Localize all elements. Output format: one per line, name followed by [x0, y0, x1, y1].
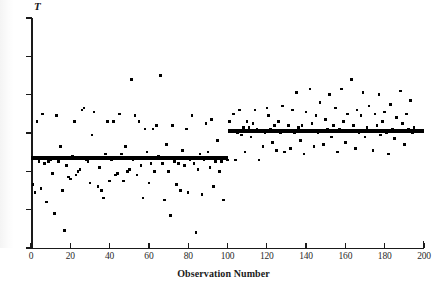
x-axis-title: Observation Number — [0, 269, 447, 279]
data-point — [332, 124, 335, 127]
data-point — [346, 113, 349, 116]
data-point — [183, 164, 186, 167]
data-point — [275, 149, 278, 152]
data-point — [97, 185, 100, 188]
data-point — [45, 201, 48, 204]
data-point — [124, 145, 127, 148]
data-point — [199, 153, 202, 156]
data-point — [366, 126, 369, 129]
data-point — [344, 141, 347, 144]
data-point — [342, 120, 345, 123]
data-point — [244, 151, 247, 154]
data-point — [214, 160, 217, 163]
data-point — [413, 126, 416, 129]
data-point — [328, 93, 331, 96]
data-point — [393, 137, 396, 140]
data-point — [146, 151, 149, 154]
data-point — [234, 159, 237, 162]
data-point — [138, 120, 141, 123]
data-point — [376, 124, 379, 127]
data-point — [395, 116, 398, 119]
data-point — [163, 199, 166, 202]
data-point — [43, 162, 46, 165]
data-point — [177, 162, 180, 165]
data-point — [53, 212, 56, 215]
data-point — [405, 113, 408, 116]
data-point — [161, 162, 164, 165]
mean-after-shift — [228, 129, 425, 133]
data-point — [315, 114, 318, 117]
data-point — [73, 120, 76, 123]
x-tick-label: 20 — [53, 252, 87, 262]
data-point — [266, 107, 269, 110]
data-point — [383, 111, 386, 114]
scatter-plot-figure: T -20246810 020406080100120140160180200 … — [0, 0, 447, 288]
data-point — [250, 136, 253, 139]
x-tick-label: 120 — [250, 252, 284, 262]
data-point — [130, 78, 133, 81]
data-point — [87, 160, 90, 163]
data-point — [248, 126, 251, 129]
data-point — [144, 128, 147, 131]
data-point — [291, 109, 294, 112]
data-point — [324, 118, 327, 121]
data-point — [311, 122, 314, 125]
data-point — [334, 107, 337, 110]
data-point — [100, 189, 103, 192]
data-point — [38, 160, 41, 163]
data-point — [187, 191, 190, 194]
data-point — [116, 172, 119, 175]
data-point — [313, 145, 316, 148]
data-point — [289, 147, 292, 150]
data-point — [150, 162, 153, 165]
data-point — [83, 107, 86, 110]
data-point — [372, 149, 375, 152]
data-point — [61, 189, 64, 192]
y-axis-title: T — [34, 1, 41, 12]
data-point — [277, 120, 280, 123]
data-point — [173, 160, 176, 163]
data-point — [171, 124, 174, 127]
data-point — [379, 134, 382, 137]
data-point — [212, 185, 215, 188]
data-point — [40, 187, 43, 190]
data-point — [181, 149, 184, 152]
data-point — [55, 114, 58, 117]
data-point — [228, 120, 231, 123]
data-point — [205, 122, 208, 125]
data-point — [252, 122, 255, 125]
data-point — [155, 124, 158, 127]
data-point — [193, 162, 196, 165]
x-tick-label: 140 — [289, 252, 323, 262]
data-point — [218, 170, 221, 173]
x-tick-label: 160 — [328, 252, 362, 262]
data-point — [165, 143, 168, 146]
data-point — [153, 170, 156, 173]
data-point — [112, 120, 115, 123]
x-tick-label: 0 — [14, 252, 48, 262]
data-point — [322, 143, 325, 146]
x-tick-label: 80 — [171, 252, 205, 262]
data-point — [169, 214, 172, 217]
data-point — [59, 145, 62, 148]
scan-artifact-smudge — [0, 0, 14, 248]
data-point — [34, 191, 37, 194]
data-point — [360, 114, 363, 117]
data-point — [75, 174, 78, 177]
data-point — [287, 124, 290, 127]
data-point — [258, 159, 261, 162]
x-tick-label: 200 — [407, 252, 441, 262]
data-point — [267, 114, 270, 117]
data-point — [136, 174, 139, 177]
data-point — [354, 147, 357, 150]
data-point — [104, 153, 107, 156]
data-point — [238, 109, 241, 112]
data-point — [41, 113, 44, 116]
data-point — [303, 153, 306, 156]
data-point — [389, 103, 392, 106]
data-point — [240, 134, 243, 137]
data-point — [185, 128, 188, 131]
data-point — [254, 109, 257, 112]
data-point — [89, 182, 92, 185]
data-point — [299, 139, 302, 142]
